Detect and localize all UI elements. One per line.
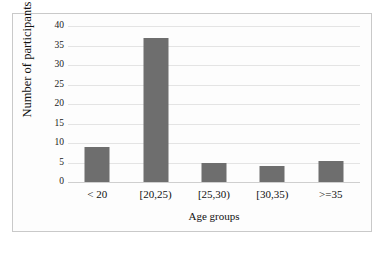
x-axis-tick-label: < 20 bbox=[68, 188, 126, 200]
y-axis-tick-label: 25 bbox=[40, 80, 64, 90]
bar[interactable] bbox=[201, 163, 226, 183]
bar-slot bbox=[126, 26, 184, 182]
bar[interactable] bbox=[85, 147, 110, 182]
y-axis-tick-labels: 0510152025303540 bbox=[40, 26, 64, 182]
bar[interactable] bbox=[260, 166, 285, 182]
bar-slot bbox=[243, 26, 301, 182]
x-axis-tick-labels: < 20[20,25)[25,30)[30,35)>=35 bbox=[68, 188, 360, 204]
bar-slot bbox=[68, 26, 126, 182]
y-axis-tick-label: 5 bbox=[40, 158, 64, 168]
bars-layer bbox=[68, 26, 360, 182]
plot-area bbox=[68, 26, 360, 182]
x-axis-tick-label: >=35 bbox=[302, 188, 360, 200]
gridline bbox=[68, 182, 360, 183]
bar[interactable] bbox=[318, 161, 343, 182]
y-axis-tick-label: 20 bbox=[40, 99, 64, 109]
y-axis-tick-label: 10 bbox=[40, 138, 64, 148]
x-axis-tick-label: [30,35) bbox=[243, 188, 301, 200]
x-axis-tick-label: [20,25) bbox=[126, 188, 184, 200]
bar-slot bbox=[302, 26, 360, 182]
y-axis-tick-label: 0 bbox=[40, 177, 64, 187]
y-axis-tick-label: 30 bbox=[40, 60, 64, 70]
chart-screenshot: Number of participants 0510152025303540 … bbox=[0, 0, 389, 253]
y-axis-tick-label: 35 bbox=[40, 41, 64, 51]
y-axis-tick-label: 15 bbox=[40, 119, 64, 129]
x-axis-title: Age groups bbox=[68, 210, 360, 222]
y-axis-tick-label: 40 bbox=[40, 21, 64, 31]
bar-slot bbox=[185, 26, 243, 182]
bar[interactable] bbox=[143, 38, 168, 182]
y-axis-title-text: Number of participants bbox=[20, 0, 35, 135]
x-axis-tick-label: [25,30) bbox=[185, 188, 243, 200]
